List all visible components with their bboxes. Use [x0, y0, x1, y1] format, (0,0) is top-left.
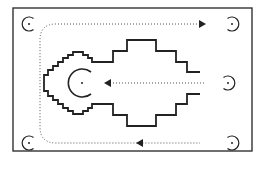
marker-middle-right	[224, 76, 235, 90]
arrow-left-icon	[136, 139, 143, 147]
marker-bottom-right	[228, 136, 239, 150]
outer-frame	[13, 8, 252, 151]
maze-diagram	[0, 0, 264, 170]
marker-center	[68, 69, 91, 97]
marker-top-right	[228, 17, 239, 31]
marker-bottom-left	[22, 136, 33, 150]
arrow-left-icon	[104, 79, 111, 87]
top-dotted-path	[40, 24, 203, 143]
arrow-right-icon	[199, 20, 206, 28]
marker-top-left	[22, 17, 33, 31]
